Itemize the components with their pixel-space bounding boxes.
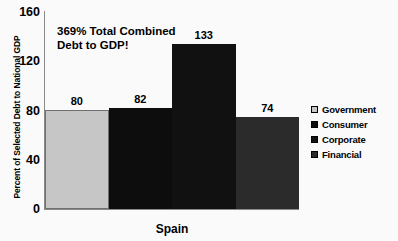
legend-swatch-government	[311, 106, 318, 113]
legend-swatch-corporate	[311, 136, 318, 143]
bar-financial[interactable]	[236, 117, 300, 209]
legend-item-financial[interactable]: Financial	[311, 148, 376, 160]
legend-item-consumer[interactable]: Consumer	[311, 118, 376, 130]
legend-swatch-financial	[311, 151, 318, 158]
bar-government[interactable]	[45, 110, 109, 209]
bar-label-consumer: 82	[109, 94, 173, 105]
legend-label-government: Government	[322, 104, 376, 115]
bar-label-financial: 74	[236, 103, 300, 114]
y-axis-ticks: 160 120 80 40 0	[14, 0, 40, 241]
bar-chart: Percent of Selected Debt to National GDP…	[0, 0, 398, 241]
y-tick-0: 0	[14, 203, 40, 216]
y-tick-40: 40	[14, 154, 40, 167]
legend-label-financial: Financial	[322, 149, 361, 160]
bar-corporate[interactable]	[172, 44, 236, 209]
bar-consumer[interactable]	[109, 108, 173, 209]
legend-label-consumer: Consumer	[322, 119, 367, 130]
x-axis-line	[44, 209, 299, 210]
legend-swatch-consumer	[311, 121, 318, 128]
bar-label-government: 80	[45, 96, 109, 107]
annotation-line-1: 369% Total Combined	[57, 24, 227, 38]
legend-label-corporate: Corporate	[322, 134, 366, 145]
annotation-line-2: Debt to GDP!	[57, 38, 227, 52]
legend-item-corporate[interactable]: Corporate	[311, 133, 376, 145]
legend-item-government[interactable]: Government	[311, 103, 376, 115]
y-tick-80: 80	[14, 105, 40, 118]
chart-annotation: 369% Total Combined Debt to GDP!	[57, 24, 227, 52]
x-axis-category-label: Spain	[45, 222, 299, 236]
y-tick-160: 160	[14, 6, 40, 19]
y-tick-120: 120	[14, 55, 40, 68]
chart-legend: Government Consumer Corporate Financial	[311, 103, 376, 163]
